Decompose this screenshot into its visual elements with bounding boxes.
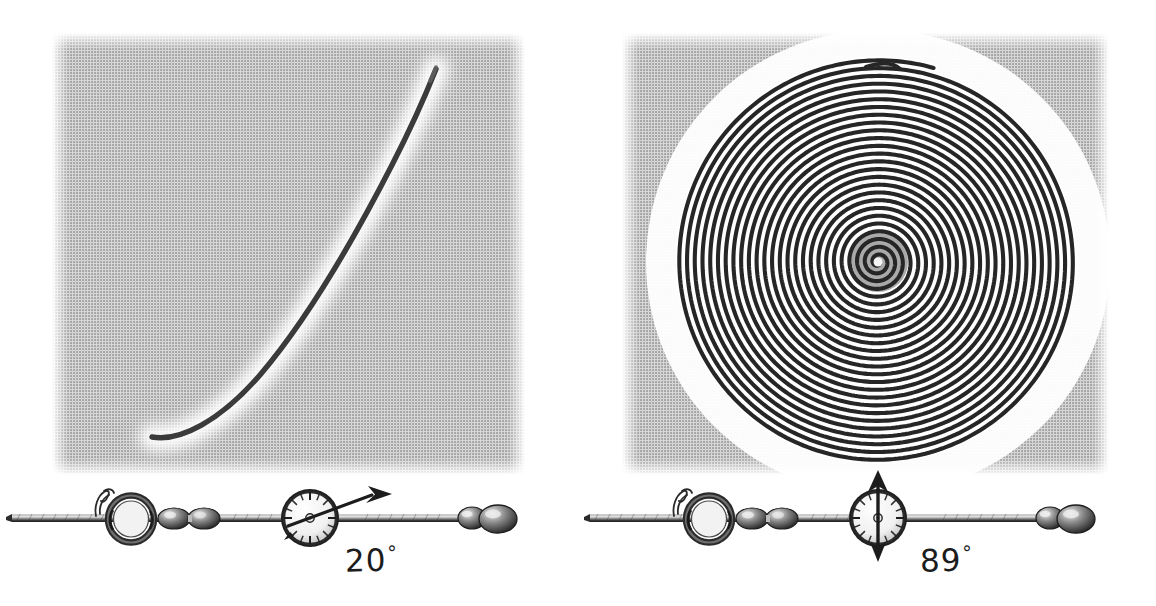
degree-symbol: ° [387, 541, 398, 563]
figure-root: 20° [0, 0, 1156, 606]
degree-symbol: ° [962, 541, 973, 563]
trace-panel-89 [622, 33, 1109, 475]
bead-pair [158, 508, 220, 529]
apparatus-20 [0, 470, 578, 590]
spiral-center-dot [874, 258, 883, 267]
rod-shaft [584, 514, 1072, 522]
apparatus-89 [578, 470, 1156, 590]
angle-value: 89 [920, 542, 962, 579]
plate-89-degrees: 89° [578, 0, 1156, 606]
trace-curve-20 [52, 33, 525, 475]
ring-element [108, 496, 154, 543]
bead-pair [736, 508, 798, 529]
end-weight [1036, 505, 1095, 533]
angle-label-20: 20° [345, 541, 399, 578]
trace-spiral-89 [622, 33, 1109, 475]
end-weight [458, 505, 517, 533]
angle-label-89: 89° [920, 541, 974, 578]
ring-element [686, 496, 732, 543]
trace-panel-20 [52, 33, 525, 475]
rod-shaft [6, 514, 494, 522]
angle-value: 20 [345, 542, 387, 579]
plate-20-degrees: 20° [0, 0, 578, 606]
